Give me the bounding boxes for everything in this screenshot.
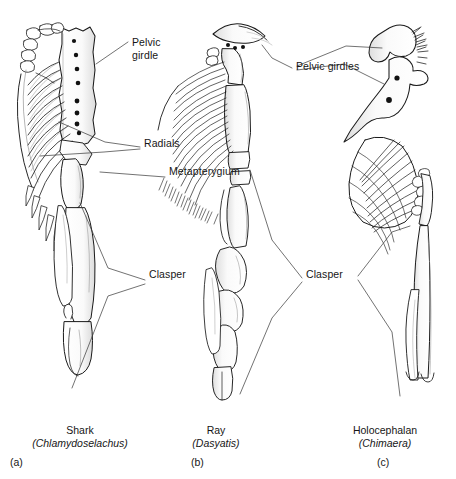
panel-letter-b: (b) [191, 456, 204, 468]
ray-pelvic-girdle [213, 24, 265, 44]
label-radials: Radials [144, 137, 180, 150]
ray-clasper-tip [213, 367, 233, 400]
caption-shark-common: Shark [66, 424, 93, 436]
caption-shark-scientific: (Chlamydoselachus) [0, 437, 160, 450]
label-pelvic-girdle-line1: Pelvic [132, 36, 161, 48]
caption-ray-common: Ray [207, 424, 226, 436]
label-metapterygium: Metapterygium [169, 165, 240, 178]
label-clasper-right: Clasper [306, 268, 343, 281]
label-pelvic-girdle-line2: girdle [132, 49, 158, 61]
leader-clasper-c-lower [358, 280, 400, 396]
leader-pelvic-girdles-ray [262, 45, 292, 68]
panel-letter-c: (c) [377, 456, 389, 468]
chimaera-pelvic-girdle-upper [369, 25, 416, 62]
ray-clasper-upper [227, 186, 248, 248]
caption-shark: Shark (Chlamydoselachus) [0, 424, 160, 450]
shark-metapterygium [61, 159, 84, 210]
leader-metapterygium [100, 172, 165, 177]
leader-pelvic-girdle [96, 42, 128, 64]
ray-specimen [158, 24, 272, 400]
leader-clasper-b-upper [250, 170, 302, 278]
anatomy-illustration [0, 0, 456, 479]
caption-holocephalan: Holocephalan (Chimaera) [318, 424, 452, 450]
shark-specimen [17, 23, 96, 376]
panel-letter-a: (a) [10, 456, 23, 468]
ray-radials [172, 62, 233, 205]
ray-basipterygium [225, 85, 251, 154]
chimaera-fin [349, 137, 418, 254]
chimaera-clasper-prong [406, 290, 419, 380]
caption-holocephalan-scientific: (Chimaera) [318, 437, 452, 450]
label-clasper-left: Clasper [149, 268, 186, 281]
chimaera-specimen [344, 25, 434, 382]
leader-clasper-b-lower [240, 282, 302, 394]
caption-holocephalan-common: Holocephalan [353, 424, 417, 436]
label-pelvic-girdles: Pelvic girdles [296, 60, 359, 73]
caption-ray: Ray (Dasyatis) [156, 424, 276, 450]
anatomy-figure: Pelvic girdle Radials Metapterygium Clas… [0, 0, 456, 479]
caption-ray-scientific: (Dasyatis) [156, 437, 276, 450]
label-pelvic-girdle: Pelvic girdle [132, 36, 161, 61]
